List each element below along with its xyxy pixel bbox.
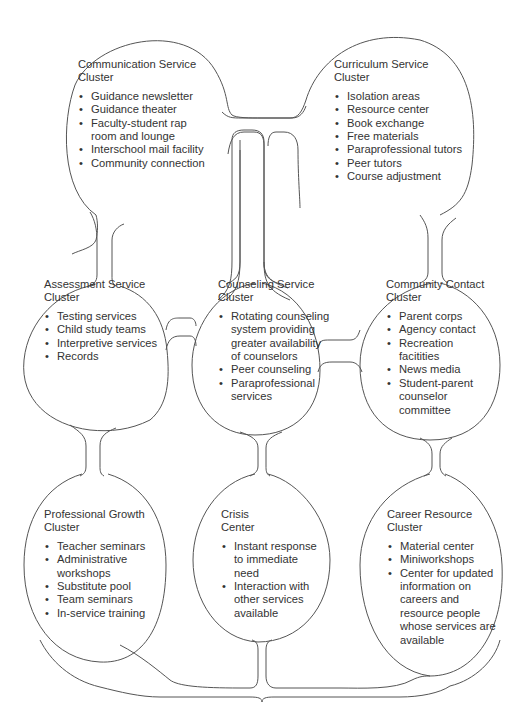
cluster-title: Counseling ServiceCluster	[218, 278, 333, 305]
channel-row2-row3-mid	[240, 432, 282, 476]
professional-growth-cluster: Professional GrowthCluster Teacher semin…	[44, 508, 169, 620]
channel-comm-assess-right	[112, 224, 124, 286]
channel-assess-counsel-lower	[166, 336, 196, 350]
cluster-item-list: Isolation areas Resource center Book exc…	[334, 90, 474, 184]
cluster-title: Community ContactCluster	[386, 278, 491, 305]
list-item: Book exchange	[334, 117, 474, 130]
list-item: Center for updated information on career…	[387, 567, 497, 647]
channel-assess-counsel-upper	[166, 318, 196, 330]
top-channel-mid-right	[226, 140, 240, 300]
list-item: Child study teams	[44, 323, 169, 336]
cluster-title: Assessment ServiceCluster	[44, 278, 169, 305]
channel-row2-row3-left	[70, 425, 116, 476]
list-item: Guidance newsletter	[78, 90, 228, 103]
list-item: Interpretive services	[44, 337, 169, 350]
list-item: Team seminars	[44, 593, 169, 606]
counseling-cluster: Counseling ServiceCluster Rotating couns…	[218, 278, 333, 404]
cluster-title: Career ResourceCluster	[387, 508, 497, 535]
channel-top-horizontal-lower	[228, 132, 288, 288]
cluster-title: CrisisCenter	[221, 508, 326, 535]
community-contact-cluster: Community ContactCluster Parent corps Ag…	[386, 278, 491, 417]
curriculum-cluster: Curriculum ServiceCluster Isolation area…	[334, 58, 474, 184]
list-item: Teacher seminars	[44, 540, 169, 553]
list-item: Agency contact	[386, 323, 491, 336]
list-item: Parent corps	[386, 310, 491, 323]
channel-row1-row2-right	[420, 215, 456, 283]
list-item: Records	[44, 350, 169, 363]
list-item: Free materials	[334, 130, 474, 143]
bottom-foot-right	[266, 640, 430, 688]
list-item: Paraprofessional tutors	[334, 143, 474, 156]
list-item: Material center	[387, 540, 497, 553]
list-item: Paraprofessional services	[218, 377, 333, 404]
cluster-item-list: Guidance newsletter Guidance theater Fac…	[78, 90, 228, 170]
channel-row2-row3-right	[420, 438, 452, 476]
channel-comm-assess-left	[88, 212, 97, 286]
cluster-item-list: Rotating counseling system providing gre…	[218, 310, 333, 404]
list-item: Isolation areas	[334, 90, 474, 103]
cluster-title: Professional GrowthCluster	[44, 508, 169, 535]
list-item: Peer tutors	[334, 157, 474, 170]
list-item: Substitute pool	[44, 580, 169, 593]
cluster-item-list: Teacher seminars Administrative workshop…	[44, 540, 169, 620]
cluster-title: Communication ServiceCluster	[78, 58, 228, 85]
list-item: Peer counseling	[218, 363, 333, 376]
list-item: Community connection	[78, 157, 228, 170]
cluster-item-list: Instant response to immediate need Inter…	[221, 540, 326, 620]
cluster-item-list: Testing services Child study teams Inter…	[44, 310, 169, 364]
list-item: Testing services	[44, 310, 169, 323]
cluster-item-list: Parent corps Agency contact Recreation f…	[386, 310, 491, 417]
communication-cluster: Communication ServiceCluster Guidance ne…	[78, 58, 228, 170]
list-item: Guidance theater	[78, 103, 228, 116]
list-item: Interschool mail facility	[78, 143, 228, 156]
crisis-center-cluster: CrisisCenter Instant response to immedia…	[221, 508, 326, 620]
list-item: Interaction with other services availabl…	[221, 580, 326, 620]
list-item: Miniworkshops	[387, 553, 497, 566]
list-item: Student-parent counselor committee	[386, 377, 489, 417]
list-item: Faculty-student rap room and lounge	[78, 117, 201, 144]
list-item: News media	[386, 363, 491, 376]
cluster-item-list: Material center Miniworkshops Center for…	[387, 540, 497, 647]
cluster-title: Curriculum ServiceCluster	[334, 58, 474, 85]
list-item: Recreation facitities	[386, 337, 469, 364]
top-channel-mid-left	[218, 130, 290, 300]
list-item: Course adjustment	[334, 170, 474, 183]
channel-row1-row2-mid	[226, 150, 280, 284]
list-item: Instant response to immediate need	[221, 540, 326, 580]
assessment-cluster: Assessment ServiceCluster Testing servic…	[44, 278, 169, 363]
career-resource-cluster: Career ResourceCluster Material center M…	[387, 508, 497, 647]
list-item: In-service training	[44, 607, 169, 620]
list-item: Rotating counseling system providing gre…	[218, 310, 333, 364]
bottom-brace	[40, 640, 500, 702]
channel-top-vertical-right	[268, 132, 300, 208]
list-item: Resource center	[334, 103, 474, 116]
list-item: Administrative workshops	[44, 553, 147, 580]
